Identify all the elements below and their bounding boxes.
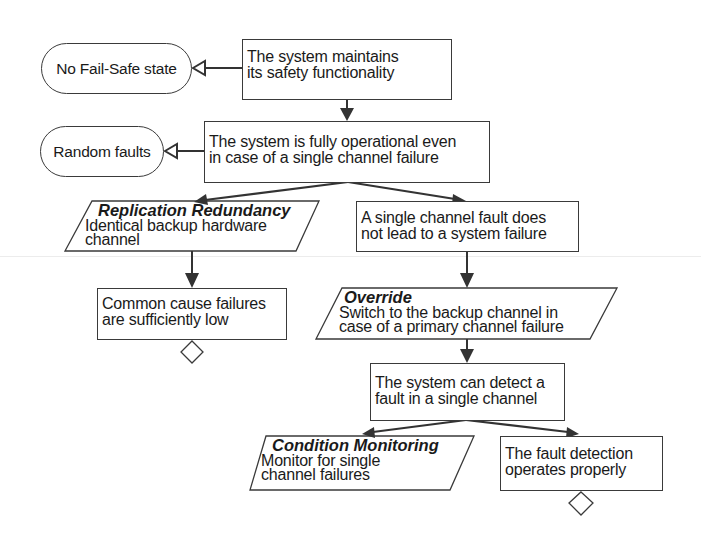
maintains-safety-node: The system maintains its safety function… xyxy=(242,39,452,100)
replication-line2: channel xyxy=(85,233,291,247)
single-fault-line2: not lead to a system failure xyxy=(361,226,574,242)
single-fault-line1: A single channel fault does xyxy=(361,210,574,226)
undeveloped-diamond-fault-detection xyxy=(569,492,593,515)
edge-replication-to-common-cause xyxy=(185,251,199,288)
edge-maintains-to-no-failsafe xyxy=(193,61,242,75)
random-faults-label: Random faults xyxy=(53,144,150,160)
edge-maintains-to-operational xyxy=(340,99,354,121)
random-faults-node: Random faults xyxy=(40,126,164,177)
override-line2: case of a primary channel failure xyxy=(339,320,564,334)
replication-redundancy-node: Replication Redundancy Identical backup … xyxy=(98,202,291,247)
no-failsafe-state-node: No Fail-Safe state xyxy=(41,43,192,94)
detect-line1: The system can detect a xyxy=(375,375,560,391)
common-cause-line1: Common cause failures xyxy=(102,296,282,312)
detect-line2: fault in a single channel xyxy=(375,391,560,407)
common-cause-line2: are sufficiently low xyxy=(102,312,282,328)
single-fault-node: A single channel fault does not lead to … xyxy=(356,201,579,252)
detect-fault-node: The system can detect a fault in a singl… xyxy=(370,363,565,421)
fault-detection-line2: operates properly xyxy=(505,462,658,478)
maintains-line2: its safety functionality xyxy=(247,65,447,81)
edge-single-fault-to-override xyxy=(460,251,474,288)
maintains-line1: The system maintains xyxy=(247,49,447,65)
common-cause-node: Common cause failures are sufficiently l… xyxy=(97,288,287,340)
edge-operational-to-random-faults xyxy=(165,144,204,158)
fault-detection-line1: The fault detection xyxy=(505,446,658,462)
fully-operational-line2: in case of a single channel failure xyxy=(209,150,485,166)
override-node: Override Switch to the backup channel in… xyxy=(344,289,564,334)
fault-detection-ok-node: The fault detection operates properly xyxy=(500,436,663,491)
fully-operational-node: The system is fully operational even in … xyxy=(204,121,490,183)
no-failsafe-state-label: No Fail-Safe state xyxy=(56,61,176,77)
condition-monitoring-node: Condition Monitoring Monitor for single … xyxy=(272,437,439,482)
undeveloped-diamond-common-cause xyxy=(181,341,203,363)
edge-override-to-detect xyxy=(460,339,474,363)
fully-operational-line1: The system is fully operational even xyxy=(209,134,485,150)
condition-monitoring-line2: channel failures xyxy=(261,468,439,482)
